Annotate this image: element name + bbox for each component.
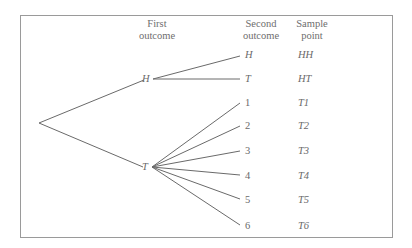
branch-T-6 <box>152 167 240 225</box>
sample-point-HT: HT <box>298 73 311 85</box>
tree-branches <box>0 0 412 248</box>
sample-point-T3: T3 <box>298 145 309 157</box>
node-second-T-2: 2 <box>245 120 250 132</box>
branch-T-2 <box>152 126 240 167</box>
node-second-T-1: 1 <box>245 97 250 109</box>
branch-T-4 <box>152 167 240 175</box>
header-sample-point: Sample point <box>282 18 342 42</box>
sample-point-HH: HH <box>298 49 313 61</box>
branch-T-1 <box>152 103 240 167</box>
branch-T-5 <box>152 167 240 199</box>
node-second-T-4: 4 <box>245 170 250 182</box>
node-second-H-H: H <box>245 49 253 61</box>
sample-point-T6: T6 <box>298 220 309 232</box>
node-second-T-5: 5 <box>245 194 250 206</box>
node-first-T: T <box>142 161 148 173</box>
sample-point-T5: T5 <box>298 194 309 206</box>
branch-T-3 <box>152 151 240 167</box>
branch-root-T <box>39 123 143 167</box>
sample-point-T1: T1 <box>298 97 309 109</box>
node-second-T-3: 3 <box>245 145 250 157</box>
node-first-H: H <box>142 73 150 85</box>
header-first-outcome: First outcome <box>117 18 197 42</box>
sample-point-T4: T4 <box>298 170 309 182</box>
node-second-T-6: 6 <box>245 220 250 232</box>
branch-root-H <box>39 80 144 123</box>
node-second-H-T: T <box>245 73 251 85</box>
sample-point-T2: T2 <box>298 120 309 132</box>
branch-H-H <box>153 56 240 79</box>
